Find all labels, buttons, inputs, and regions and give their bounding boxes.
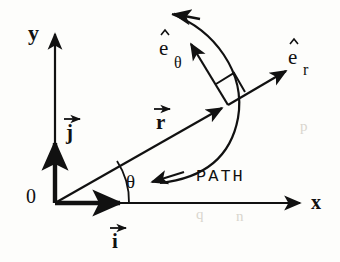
path-label: PATH [196,168,245,185]
position-vector-r-arrow [55,108,222,203]
unit-vector-etheta-label-subscript: θ [174,55,182,71]
hat-accent-etheta [161,30,169,35]
unit-vector-er-label-base: e [288,47,297,68]
axis-label-x: x [311,192,321,212]
right-angle-marker [216,73,245,92]
unit-vector-er-label-subscript: r [303,62,308,78]
angle-theta-label: θ [126,172,135,191]
figure-canvas: q n p [0,0,340,262]
diagram-drawing [0,0,340,262]
unit-vector-etheta-label-base: e [159,38,168,59]
unit-vector-i-label: i [112,231,118,252]
position-vector-r-label: r [156,112,165,133]
hat-accent-er [290,39,298,44]
path-curve [160,14,239,183]
axis-label-y: y [28,22,39,44]
origin-label: 0 [26,186,36,206]
unit-vector-j-label: j [66,122,73,143]
